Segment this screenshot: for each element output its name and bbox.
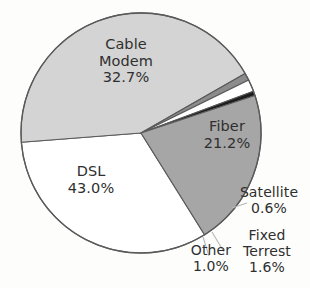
slice-label-satellite: Satellite 0.6% [233, 185, 305, 217]
slice-label-cable-modem-line2: Modem [78, 53, 174, 70]
slice-label-dsl: DSL 43.0% [48, 163, 134, 196]
slice-label-fiber-line1: Fiber [186, 118, 268, 135]
slice-label-fixed-terrest: Fixed Terrest 1.6% [232, 228, 302, 276]
slice-value-satellite: 0.6% [233, 201, 305, 217]
slice-value-fixed-terrest: 1.6% [232, 260, 302, 276]
slice-label-cable-modem-line1: Cable [78, 36, 174, 53]
slice-label-fiber: Fiber 21.2% [186, 118, 268, 151]
slice-label-other-line1: Other [182, 243, 240, 259]
slice-label-fixed-terrest-line1: Fixed [232, 228, 302, 244]
slice-value-fiber: 21.2% [186, 135, 268, 152]
slice-value-cable-modem: 32.7% [78, 69, 174, 86]
slice-label-fixed-terrest-line2: Terrest [232, 244, 302, 260]
slice-label-other: Other 1.0% [182, 243, 240, 275]
slice-value-other: 1.0% [182, 259, 240, 275]
slice-label-dsl-line1: DSL [48, 163, 134, 180]
slice-label-cable-modem: Cable Modem 32.7% [78, 36, 174, 86]
pie-chart: Cable Modem 32.7% Fiber 21.2% DSL 43.0% … [0, 0, 310, 288]
slice-value-dsl: 43.0% [48, 180, 134, 197]
slice-label-satellite-line1: Satellite [233, 185, 305, 201]
